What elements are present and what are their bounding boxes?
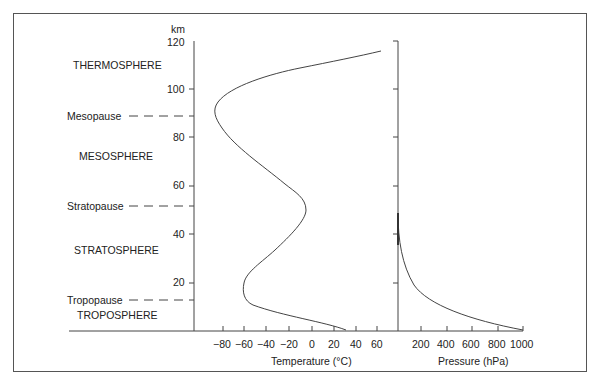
pressure-tick-800: 800 (488, 338, 506, 350)
temp-tick-neg40: −40 (257, 338, 275, 350)
y-tick-80: 80 (173, 131, 185, 143)
label-stratosphere: STRATOSPHERE (74, 244, 159, 256)
y-tick-100: 100 (167, 83, 185, 95)
boundary-dashes (129, 116, 194, 300)
y-tick-120: 120 (167, 36, 185, 48)
temperature-axis-title: Temperature (°C) (271, 355, 352, 367)
temp-tick-60: 60 (371, 338, 383, 350)
temp-tick-neg60: −60 (235, 338, 253, 350)
pressure-tick-600: 600 (462, 338, 480, 350)
label-tropopause: Tropopause (67, 294, 123, 306)
temp-tick-neg80: −80 (213, 338, 231, 350)
pressure-axis-title: Pressure (hPa) (438, 355, 509, 367)
label-mesosphere: MESOSPHERE (79, 150, 153, 162)
temp-tick-neg20: −20 (280, 338, 298, 350)
label-stratopause: Stratopause (67, 200, 124, 212)
pressure-tick-200: 200 (412, 338, 430, 350)
y-axis-unit: km (171, 23, 185, 35)
label-thermosphere: THERMOSPHERE (73, 59, 162, 71)
temp-tick-40: 40 (350, 338, 362, 350)
altitude-axis (189, 41, 194, 331)
temperature-curve (215, 51, 381, 330)
label-mesopause: Mesopause (67, 110, 121, 122)
pressure-tick-1000: 1000 (510, 338, 533, 350)
y-tick-20: 20 (173, 276, 185, 288)
y-tick-40: 40 (173, 228, 185, 240)
y-tick-60: 60 (173, 179, 185, 191)
temperature-axis-ticks (223, 326, 377, 331)
temp-tick-20: 20 (328, 338, 340, 350)
pressure-altitude-axis (393, 41, 398, 331)
label-troposphere: TROPOSPHERE (77, 309, 158, 321)
pressure-tick-400: 400 (437, 338, 455, 350)
pressure-curve (398, 213, 523, 330)
temp-tick-0: 0 (309, 338, 315, 350)
